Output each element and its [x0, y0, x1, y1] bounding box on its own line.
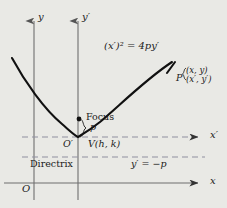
- figure-canvas: [0, 0, 227, 208]
- parabola-equation-label: (x′)² = 4py′: [104, 41, 159, 52]
- directrix-label: Directrix: [30, 159, 73, 169]
- x-prime-axis-label: x′: [210, 130, 218, 141]
- y-prime-axis-label: y′: [82, 12, 90, 23]
- point-P-label: P: [176, 73, 182, 83]
- y-axis-label: y: [38, 12, 44, 23]
- origin-label: O: [22, 184, 30, 195]
- point-P-coordinates: (x, y) (x′, y′): [186, 66, 212, 84]
- vertex-label: V(h, k): [88, 139, 120, 149]
- x-axis-label: x: [210, 176, 216, 187]
- point-P-coords-primed: (x′, y′): [186, 75, 212, 84]
- origin-prime-label: O′: [63, 139, 73, 149]
- focal-distance-label: p: [90, 122, 96, 132]
- parabola-figure: y y′ x′ x O O′ V(h, k) (x′)² = 4py′ Focu…: [0, 0, 227, 208]
- directrix-equation-label: y′ = −p: [131, 159, 167, 169]
